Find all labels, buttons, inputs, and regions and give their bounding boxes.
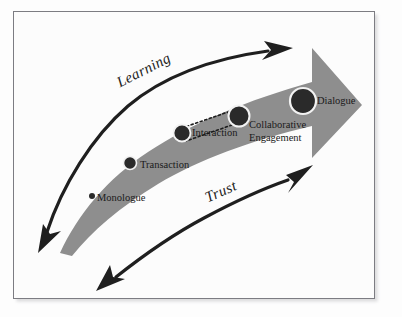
stage-label-collaborative: Collaborative Engagement xyxy=(249,119,306,144)
stage-label-dialogue: Dialogue xyxy=(317,95,356,106)
stage-label-interaction: Interaction xyxy=(192,127,237,138)
stage-node-monologue[interactable] xyxy=(89,193,95,199)
stage-node-collaborative[interactable] xyxy=(229,106,250,127)
diagram-canvas xyxy=(0,0,402,317)
stage-label-collaborative-line1: Collaborative xyxy=(249,119,306,130)
diagram-figure: Monologue Transaction Interaction Collab… xyxy=(0,0,402,317)
stage-node-dialogue[interactable] xyxy=(290,88,316,114)
stage-node-transaction[interactable] xyxy=(124,157,137,170)
stage-label-transaction: Transaction xyxy=(140,159,189,170)
stage-label-collaborative-line2: Engagement xyxy=(249,132,301,143)
stage-node-interaction[interactable] xyxy=(174,125,191,142)
stage-label-monologue: Monologue xyxy=(97,192,145,203)
growth-arrow-band xyxy=(60,48,362,256)
